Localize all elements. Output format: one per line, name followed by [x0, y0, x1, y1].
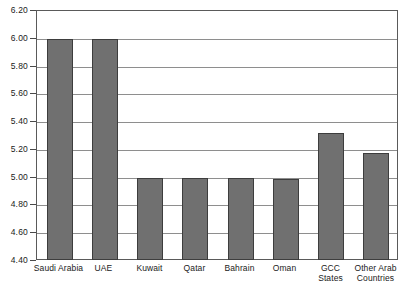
- y-axis: 6.206.005.805.605.405.205.004.804.604.40: [0, 0, 410, 294]
- y-axis-tick: [30, 10, 36, 11]
- x-axis-tick-label-line: Bahrain: [225, 263, 255, 273]
- y-axis-tick: [30, 66, 36, 67]
- y-axis-tick: [30, 260, 36, 261]
- y-axis-tick-label: 4.40: [0, 256, 28, 265]
- y-axis-tick: [30, 149, 36, 150]
- x-axis-tick-label-line: Other Arab: [354, 263, 396, 273]
- y-axis-tick: [30, 38, 36, 39]
- y-axis-tick-label: 5.60: [0, 89, 28, 98]
- y-axis-tick-label: 5.20: [0, 145, 28, 154]
- x-axis-tick-label-line: GCC: [321, 263, 340, 273]
- y-axis-tick-label: 5.40: [0, 117, 28, 126]
- x-axis-tick-label-line: Kuwait: [136, 263, 162, 273]
- x-axis-tick-label-line: Countries: [346, 273, 405, 283]
- y-axis-tick: [30, 121, 36, 122]
- bar-chart-figure: 6.206.005.805.605.405.205.004.804.604.40…: [0, 0, 410, 294]
- x-axis-tick-label-line: Qatar: [184, 263, 206, 273]
- y-axis-tick-label: 6.00: [0, 34, 28, 43]
- y-axis-tick: [30, 204, 36, 205]
- y-axis-tick: [30, 93, 36, 94]
- x-axis-tick-label-line: UAE: [95, 263, 113, 273]
- y-axis-tick-label: 4.60: [0, 228, 28, 237]
- y-axis-tick: [30, 177, 36, 178]
- x-axis-tick-label-line: Oman: [273, 263, 297, 273]
- x-axis-tick-label: Other ArabCountries: [346, 263, 405, 283]
- y-axis-tick-label: 6.20: [0, 6, 28, 15]
- y-axis-tick-label: 5.00: [0, 173, 28, 182]
- y-axis-tick-label: 4.80: [0, 200, 28, 209]
- x-axis: Saudi ArabiaUAEKuwaitQatarBahrainOmanGCC…: [36, 263, 398, 294]
- y-axis-tick: [30, 232, 36, 233]
- y-axis-tick-label: 5.80: [0, 62, 28, 71]
